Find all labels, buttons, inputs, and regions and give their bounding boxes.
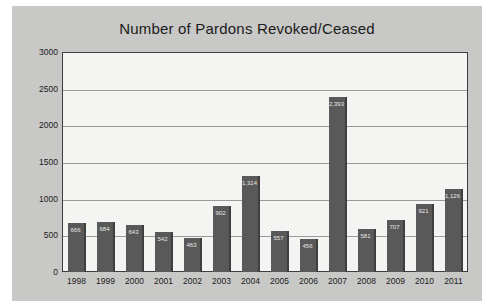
x-axis-tick-label: 2011 xyxy=(444,276,462,286)
x-axis-tick-label: 2008 xyxy=(357,276,376,286)
x-axis-tick-label: 1998 xyxy=(67,276,86,286)
y-axis-tick-label: 2500 xyxy=(14,84,58,94)
x-axis-tick-label: 2006 xyxy=(299,276,318,286)
x-axis-tick-label: 2007 xyxy=(328,276,347,286)
x-axis-tick-label: 1999 xyxy=(96,276,115,286)
y-axis-tick-label: 1000 xyxy=(14,194,58,204)
y-axis-tick-label: 3000 xyxy=(14,47,58,57)
y-axis-tick-label: 0 xyxy=(14,267,58,277)
gridline xyxy=(63,90,467,91)
x-axis-tick-label: 2005 xyxy=(270,276,289,286)
plot-area xyxy=(62,52,468,272)
x-axis-tick-label: 2010 xyxy=(415,276,434,286)
gridline xyxy=(63,200,467,201)
x-axis-tick-label: 2002 xyxy=(183,276,202,286)
chart-canvas: Number of Pardons Revoked/Ceased 3000250… xyxy=(12,6,482,301)
x-axis-tick-label: 2004 xyxy=(241,276,260,286)
y-axis-tick-label: 2000 xyxy=(14,120,58,130)
x-axis-tick-label: 2001 xyxy=(154,276,173,286)
chart-title: Number of Pardons Revoked/Ceased xyxy=(12,20,482,37)
x-axis-tick-label: 2000 xyxy=(125,276,144,286)
gridline xyxy=(63,236,467,237)
y-axis-tick-label: 1500 xyxy=(14,157,58,167)
y-axis-tick-label: 500 xyxy=(14,230,58,240)
chart-container: Number of Pardons Revoked/Ceased 3000250… xyxy=(0,0,494,307)
x-axis-tick-label: 2009 xyxy=(386,276,405,286)
gridline xyxy=(63,163,467,164)
gridline xyxy=(63,126,467,127)
y-axis: 300025002000150010005000 xyxy=(12,52,58,272)
x-axis: 1998199920002001200220032004200520062007… xyxy=(62,276,468,294)
x-axis-tick-label: 2003 xyxy=(212,276,231,286)
